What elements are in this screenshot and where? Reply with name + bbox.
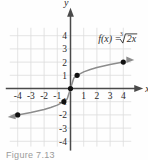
svg-text:1: 1 [62, 71, 67, 81]
svg-text:1: 1 [81, 91, 86, 101]
svg-text:2: 2 [95, 91, 100, 101]
svg-text:-2: -2 [59, 110, 67, 120]
function-annotation: f(x) =32x [98, 31, 137, 45]
axis-names: yx [63, 0, 148, 94]
svg-text:-2: -2 [40, 91, 48, 101]
svg-text:-3: -3 [59, 124, 67, 134]
svg-text:4: 4 [62, 31, 67, 41]
svg-text:y: y [63, 0, 69, 8]
svg-text:2: 2 [62, 58, 67, 68]
axes [6, 8, 143, 151]
svg-text:2x: 2x [127, 33, 137, 44]
svg-text:-4: -4 [59, 137, 67, 147]
svg-text:3: 3 [108, 91, 113, 101]
svg-text:f(x) =: f(x) = [98, 33, 121, 45]
svg-text:x: x [144, 83, 148, 94]
svg-text:3: 3 [62, 44, 67, 54]
coordinate-plane-graph: -4-3-2-112344321-1-2-3-4 f(x) =32x yx [0, 0, 148, 160]
figure-container: -4-3-2-112344321-1-2-3-4 f(x) =32x yx Fi… [0, 0, 148, 160]
svg-text:4: 4 [121, 91, 126, 101]
svg-text:-3: -3 [27, 91, 35, 101]
figure-caption: Figure 7.13 [6, 150, 55, 160]
svg-text:-4: -4 [14, 91, 22, 101]
svg-text:3: 3 [120, 31, 123, 37]
